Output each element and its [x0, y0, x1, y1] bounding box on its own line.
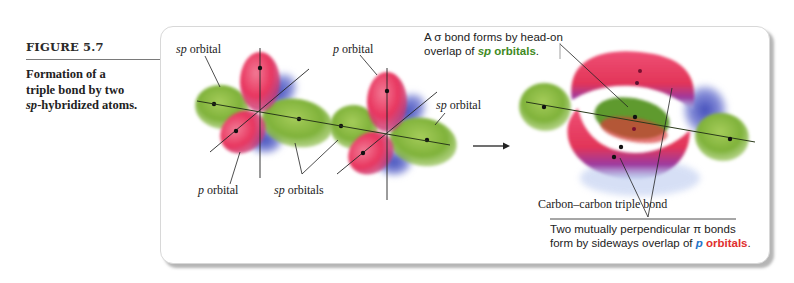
label-atom1-p-orbital: p orbital [198, 183, 238, 198]
atom-2 [327, 68, 460, 200]
triple-bond [516, 51, 755, 196]
lobe-center-dot [361, 151, 365, 155]
sigma-bond-note: A σ bond forms by head-on overlap of sp … [424, 30, 563, 58]
label-atom2-sp-orbital: sp orbital [436, 98, 481, 113]
label-atom2-p-orbital: p orbital [333, 42, 373, 57]
lobe-center-dot [234, 129, 238, 133]
lobe-center-dot [633, 115, 637, 119]
lobe-center-dot [638, 69, 642, 73]
lobe-center-dot [542, 105, 546, 109]
arrow-right-icon [473, 143, 510, 150]
lobe-center-dot [632, 127, 636, 131]
lobe-center-dot [619, 145, 623, 149]
lobe-center-dot [728, 137, 732, 141]
lobe-center-dot [385, 89, 389, 93]
label-triple-bond: Carbon–carbon triple bond [538, 197, 667, 212]
lobe-center-dot [258, 66, 262, 70]
lobe-center-dot [612, 155, 616, 159]
label-atom1-sp-orbital: sp orbital [176, 42, 221, 57]
label-sp-orbitals: sp orbitals [274, 183, 324, 198]
pi-bond-note: Two mutually perpendicular π bonds form … [550, 222, 751, 250]
lobe-center-dot [635, 81, 639, 85]
